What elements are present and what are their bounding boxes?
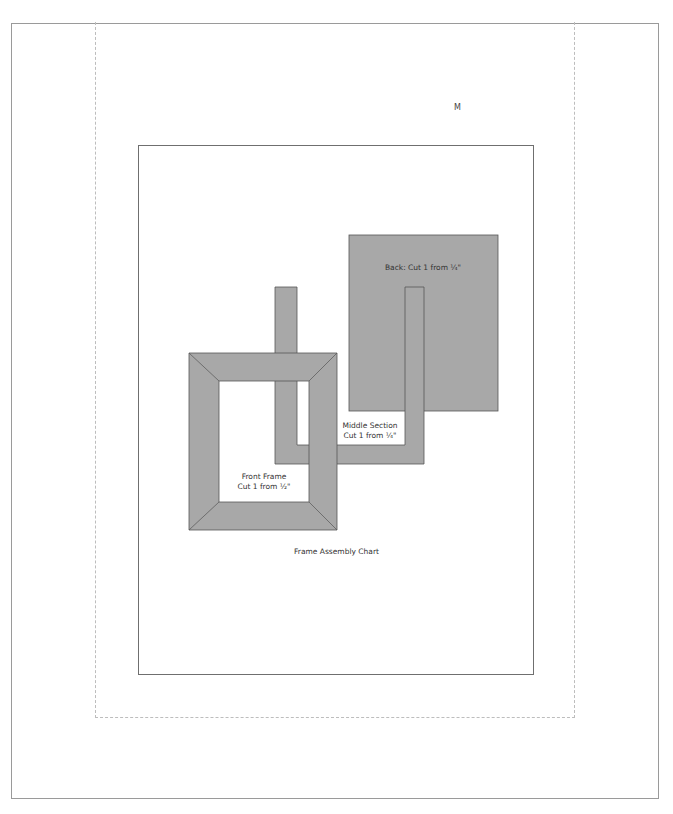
front-frame-label-line1: Front Frame [242,472,287,481]
frame-assembly-diagram: Back: Cut 1 from ¼" Middle Section Cut 1… [0,0,673,814]
middle-section-label-line2: Cut 1 from ¼" [343,431,396,440]
front-frame: Front Frame Cut 1 from ½" [189,353,337,530]
back-panel-label: Back: Cut 1 from ¼" [385,263,461,272]
diagram-caption: Frame Assembly Chart [0,547,673,556]
front-frame-label-line2: Cut 1 from ½" [237,482,290,491]
middle-section-label-line1: Middle Section [342,421,397,430]
